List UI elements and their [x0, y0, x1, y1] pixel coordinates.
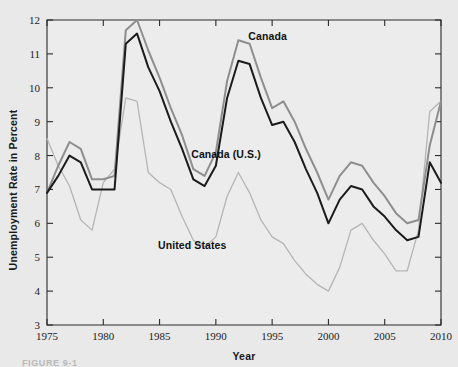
annotation-united-states: United States	[158, 239, 226, 251]
x-tick-label: 2000	[317, 330, 340, 342]
y-tick-label: 12	[29, 14, 40, 26]
y-tick-label: 5	[35, 251, 41, 263]
y-tick-label: 11	[29, 48, 40, 60]
y-tick-label: 6	[35, 217, 41, 229]
x-tick-label: 1975	[36, 330, 59, 342]
x-tick-label: 2005	[374, 330, 397, 342]
figure-container: 3456789101112 19751980198519901995200020…	[0, 0, 458, 367]
x-tick-label: 1995	[261, 330, 284, 342]
annotation-canada-u-s: Canada (U.S.)	[191, 148, 261, 160]
unemployment-line-chart: 3456789101112 19751980198519901995200020…	[0, 0, 458, 367]
figure-caption: FIGURE 9-1	[22, 358, 78, 367]
plot-area-background	[47, 20, 441, 325]
y-tick-label: 7	[35, 183, 41, 195]
x-axis-label: Year	[233, 350, 256, 362]
x-tick-label: 1980	[92, 330, 115, 342]
y-tick-label: 8	[35, 150, 41, 162]
y-tick-label: 9	[35, 116, 41, 128]
x-tick-label: 2010	[430, 330, 453, 342]
y-tick-label: 4	[35, 285, 41, 297]
y-tick-label: 10	[29, 82, 41, 94]
x-tick-label: 1985	[149, 330, 172, 342]
x-tick-label: 1990	[205, 330, 228, 342]
annotation-canada: Canada	[248, 30, 287, 42]
y-axis-label: Unemployment Rate in Percent	[7, 109, 19, 270]
